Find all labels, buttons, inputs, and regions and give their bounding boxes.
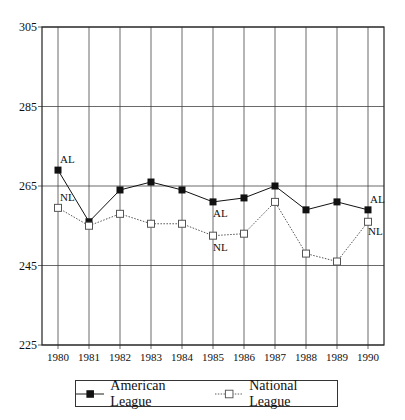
legend-item-national-league: National League xyxy=(215,378,337,410)
filled-square-marker xyxy=(334,198,341,205)
filled-square-marker xyxy=(179,186,186,193)
annotation-label: AL xyxy=(60,153,75,165)
legend: American League National League xyxy=(75,380,338,407)
open-square-marker xyxy=(272,198,279,205)
x-tick-label: 1989 xyxy=(326,351,349,363)
x-tick-label: 1987 xyxy=(264,351,287,363)
filled-square-marker xyxy=(272,183,279,190)
y-axis-tick-labels: 225245265285305 xyxy=(19,20,37,352)
x-tick-label: 1984 xyxy=(171,351,194,363)
y-tick-label: 265 xyxy=(19,179,37,193)
filled-square-marker xyxy=(148,179,155,186)
filled-square-marker-icon xyxy=(76,388,104,400)
x-tick-label: 1986 xyxy=(233,351,256,363)
x-tick-label: 1988 xyxy=(295,351,318,363)
x-tick-label: 1980 xyxy=(47,351,70,363)
filled-square-marker xyxy=(117,186,124,193)
x-tick-label: 1983 xyxy=(140,351,163,363)
x-tick-label: 1985 xyxy=(202,351,225,363)
legend-label: American League xyxy=(110,378,204,410)
open-square-marker xyxy=(303,250,310,257)
legend-label: National League xyxy=(249,378,337,410)
annotation-label: NL xyxy=(213,241,228,253)
filled-square-marker xyxy=(303,206,310,213)
filled-square-marker xyxy=(365,206,372,213)
open-square-marker-icon xyxy=(215,388,243,400)
open-square-marker xyxy=(148,220,155,227)
filled-square-marker xyxy=(55,167,62,174)
filled-square-marker xyxy=(241,194,248,201)
open-square-marker xyxy=(117,210,124,217)
annotation-label: NL xyxy=(368,225,383,237)
annotation-label: AL xyxy=(213,207,228,219)
open-square-marker xyxy=(210,232,217,239)
annotation-label: NL xyxy=(60,191,75,203)
filled-square-marker xyxy=(210,198,217,205)
open-square-marker xyxy=(179,220,186,227)
y-tick-label: 285 xyxy=(19,100,37,114)
x-tick-label: 1981 xyxy=(78,351,100,363)
x-axis-tick-labels: 1980198119821983198419851986198719881989… xyxy=(47,351,380,363)
y-tick-label: 225 xyxy=(19,338,37,352)
open-square-marker xyxy=(241,230,248,237)
y-tick-label: 245 xyxy=(19,259,37,273)
x-tick-label: 1982 xyxy=(109,351,131,363)
y-tick-label: 305 xyxy=(19,20,37,34)
annotation-label: AL xyxy=(370,193,385,205)
grid-lines xyxy=(38,27,384,349)
open-square-marker xyxy=(334,258,341,265)
x-tick-label: 1990 xyxy=(357,351,380,363)
line-chart: 225245265285305 198019811982198319841985… xyxy=(0,0,405,420)
open-square-marker xyxy=(55,204,62,211)
legend-item-american-league: American League xyxy=(76,378,205,410)
open-square-marker xyxy=(86,222,93,229)
